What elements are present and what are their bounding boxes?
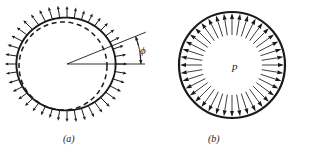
pressure-arrow-39-shaft — [225, 20, 228, 36]
traction-arrow-17-shaft — [16, 87, 23, 90]
pressure-arrow-28-shaft — [188, 74, 203, 79]
traction-arrow-1-shaft — [115, 72, 123, 73]
pressure-arrow-31-head — [181, 56, 187, 60]
pressure-arrow-10-head — [278, 63, 284, 67]
traction-arrow-26-shaft — [33, 17, 39, 25]
pressure-arrow-7-shaft — [259, 44, 273, 51]
traction-arrow-38-head — [120, 45, 124, 48]
traction-arrow-18-head — [9, 80, 13, 83]
traction-arrow-22-head — [8, 44, 12, 47]
traction-arrow-10-head — [66, 119, 69, 123]
traction-arrow-31-head — [74, 7, 77, 11]
pressure-arrow-37-shaft — [211, 24, 218, 38]
pressure-arrow-9-head — [277, 56, 283, 60]
traction-arrow-9-head — [74, 118, 77, 122]
pressure-arrow-26-head — [190, 90, 196, 95]
pressure-arrow-7-head — [272, 41, 278, 46]
pressure-arrow-6-head — [268, 34, 274, 39]
pressure-arrow-32-shaft — [188, 51, 203, 56]
pressure-arrow-21-shaft — [225, 95, 228, 111]
traction-arrow-29-shaft — [58, 9, 59, 18]
traction-arrow-8-head — [83, 116, 86, 120]
pressure-arrow-2-head — [244, 16, 248, 22]
pressure-arrow-19-head — [237, 110, 241, 116]
traction-arrow-2-shaft — [113, 79, 121, 82]
traction-arrow-15-shaft — [28, 98, 33, 103]
traction-arrow-3-shaft — [110, 86, 118, 90]
traction-arrow-25-shaft — [26, 23, 33, 30]
traction-arrow-20-head — [5, 63, 9, 66]
traction-arrow-24-shaft — [20, 30, 27, 35]
pressure-arrow-30-head — [180, 63, 186, 67]
pressure-arrow-11-shaft — [262, 70, 278, 73]
reference-circle-dashed — [19, 22, 107, 110]
traction-arrow-19-shaft — [9, 72, 17, 73]
traction-arrow-12-head — [49, 114, 52, 118]
pressure-arrow-27-shaft — [191, 79, 205, 86]
traction-arrow-13-shaft — [43, 106, 46, 112]
pressure-arrow-36-head — [201, 23, 206, 29]
pressure-arrow-29-head — [181, 70, 187, 74]
pressure-arrow-14-head — [268, 90, 274, 95]
traction-arrow-33-shaft — [88, 17, 91, 23]
pressure-arrow-38-shaft — [218, 21, 223, 36]
phi-angle-label: ϕ — [140, 44, 146, 56]
traction-arrow-11-head — [57, 117, 60, 121]
pressure-arrow-23-shaft — [211, 92, 218, 106]
pressure-arrow-20-head — [230, 111, 234, 117]
figure-root: ϕ p (a) (b) — [0, 0, 309, 159]
pressure-arrow-33-shaft — [191, 44, 205, 51]
traction-arrow-19-head — [6, 72, 10, 75]
pressure-arrow-31-shaft — [187, 58, 203, 61]
traction-arrow-34-shaft — [95, 21, 99, 26]
pressure-arrow-1-shaft — [237, 20, 240, 36]
traction-arrow-29-head — [57, 6, 60, 10]
traction-arrow-39-shaft — [115, 55, 123, 56]
caption-a: (a) — [63, 133, 75, 144]
pressure-arrow-17-head — [251, 105, 256, 111]
pressure-label: p — [232, 60, 238, 72]
traction-arrow-2-head — [121, 80, 125, 83]
phi-arc-head-bottom-head — [139, 60, 142, 64]
pressure-arrow-17-shaft — [246, 92, 253, 106]
pressure-arrow-29-shaft — [187, 70, 203, 73]
pressure-arrow-8-head — [275, 49, 281, 53]
caption-b: (b) — [208, 133, 220, 144]
pressure-arrow-12-head — [275, 77, 281, 81]
traction-arrow-27-shaft — [41, 13, 45, 21]
pressure-arrow-38-head — [216, 16, 220, 22]
pressure-arrow-32-head — [183, 49, 189, 53]
pressure-arrow-13-shaft — [259, 79, 273, 86]
traction-arrow-11-shaft — [59, 110, 60, 117]
traction-arrow-14-shaft — [35, 103, 39, 108]
pressure-arrow-9-shaft — [262, 58, 278, 61]
traction-arrow-32-shaft — [81, 14, 83, 20]
pressure-arrow-2-shaft — [241, 21, 246, 36]
traction-arrow-28-head — [48, 7, 51, 11]
pressure-arrow-18-head — [244, 108, 248, 114]
traction-arrow-5-shaft — [100, 97, 107, 104]
pressure-arrow-1-head — [237, 14, 241, 20]
pressure-arrow-3-head — [251, 19, 256, 25]
pressure-arrow-21-head — [223, 110, 227, 116]
pressure-arrow-16-head — [257, 101, 262, 107]
pressure-arrow-12-shaft — [261, 74, 276, 79]
traction-arrow-1-head — [123, 71, 127, 74]
traction-arrow-38-shaft — [113, 47, 120, 49]
traction-arrow-9-shaft — [74, 110, 75, 119]
traction-arrow-6-shaft — [95, 102, 101, 110]
pressure-arrow-28-head — [183, 77, 189, 81]
pressure-arrow-27-head — [186, 84, 192, 89]
panel-a-group — [5, 6, 146, 122]
pressure-arrow-19-shaft — [237, 95, 240, 111]
pressure-arrow-3-shaft — [246, 24, 253, 38]
pressure-arrow-22-head — [216, 108, 220, 114]
traction-arrow-22-shaft — [11, 46, 19, 49]
pressure-arrow-0-head — [230, 13, 234, 19]
traction-arrow-32-head — [82, 10, 85, 14]
pressure-arrow-18-shaft — [241, 94, 246, 109]
pressure-arrow-22-shaft — [218, 94, 223, 109]
pressure-arrow-13-head — [272, 84, 278, 89]
traction-arrow-36-shaft — [106, 32, 112, 36]
phi-arc-head-top-head — [135, 36, 138, 40]
